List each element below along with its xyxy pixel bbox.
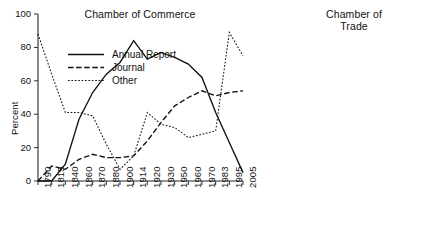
x-tick-label: 1880 (110, 166, 121, 188)
y-tick-label: 0 (5, 175, 31, 186)
legend-swatch-journal (66, 61, 106, 74)
y-tick-label: 20 (5, 142, 31, 153)
x-tick-label: 1920 (151, 166, 162, 188)
panel-title-right: Chamber of Trade (306, 8, 402, 32)
x-tick-label: 1860 (83, 166, 94, 188)
legend-label-annual-report: Annual Report (112, 48, 176, 61)
x-tick-label: 1950 (178, 166, 189, 188)
x-tick-label: 2005 (247, 166, 258, 188)
plot-svg-left (38, 14, 243, 181)
x-tick-label: 1914 (137, 166, 148, 188)
x-tick-label: 1995 (233, 166, 244, 188)
x-tick-label: 1970 (206, 166, 217, 188)
legend-swatch-other (66, 74, 106, 87)
plot-area-left: 0204060801001790181518401860187018801900… (38, 14, 243, 181)
x-tick-label: 1983 (219, 166, 230, 188)
x-tick-label: 1840 (69, 166, 80, 188)
legend-label-journal: Journal (112, 61, 145, 74)
y-tick-label: 80 (5, 41, 31, 52)
x-tick-label: 1815 (55, 166, 66, 188)
x-tick-label: 1930 (165, 166, 176, 188)
figure-chart-panels: Chamber of Commerce Percent 020406080100… (0, 0, 448, 240)
x-tick-label: 1870 (96, 166, 107, 188)
panel-chamber-of-trade: Chamber of Trade Percent 020406080100190… (268, 0, 448, 240)
x-tick-label: 1900 (124, 166, 135, 188)
legend-swatch-annual-report (66, 48, 106, 61)
x-tick-label: 1790 (42, 166, 53, 188)
y-tick-label: 40 (5, 108, 31, 119)
y-tick-label: 100 (5, 8, 31, 19)
y-tick-label: 60 (5, 75, 31, 86)
x-tick-label: 1960 (192, 166, 203, 188)
panel-chamber-of-commerce: Chamber of Commerce Percent 020406080100… (0, 0, 268, 240)
legend-label-other: Other (112, 74, 137, 87)
